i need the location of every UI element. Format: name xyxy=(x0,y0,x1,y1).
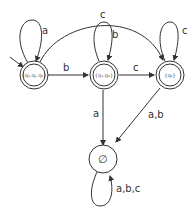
edge-s0-s0 xyxy=(20,20,42,63)
edge-label-s0-s1: b xyxy=(63,62,69,73)
state-s0: {q₀,q₁,q₂} xyxy=(20,61,48,89)
edge-s3-s3 xyxy=(91,170,111,206)
state-label-s0: {q₀,q₁,q₂} xyxy=(21,72,46,79)
dfa-diagram: a b c b c c a a,b a,b,c {q₀,q₁,q₂} {q₁,q… xyxy=(0,0,194,216)
edge-label-s2-s2: c xyxy=(182,25,188,36)
edge-label-s2-s3: a,b xyxy=(148,109,164,120)
state-s2: {q₂} xyxy=(156,61,184,89)
edge-s2-s2 xyxy=(160,22,178,61)
edge-label-s0-s2: c xyxy=(100,9,106,20)
edge-s0-s2 xyxy=(40,26,163,62)
edge-label-s1-s2: c xyxy=(133,62,139,73)
edge-label-s1-s1: b xyxy=(112,29,118,40)
edge-label-s1-s3: a xyxy=(93,108,99,119)
edge-label-s0-s0: a xyxy=(42,25,48,36)
state-s1: {q₁,q₂} xyxy=(90,61,118,89)
state-label-s1: {q₁,q₂} xyxy=(95,72,113,79)
initial-state-arrow xyxy=(10,57,23,67)
state-label-s3: ∅ xyxy=(98,153,108,166)
state-label-s2: {q₂} xyxy=(164,72,176,79)
edge-label-s3-s3: a,b,c xyxy=(116,183,140,194)
state-s3: ∅ xyxy=(89,145,117,173)
edge-s1-s1 xyxy=(94,22,112,61)
